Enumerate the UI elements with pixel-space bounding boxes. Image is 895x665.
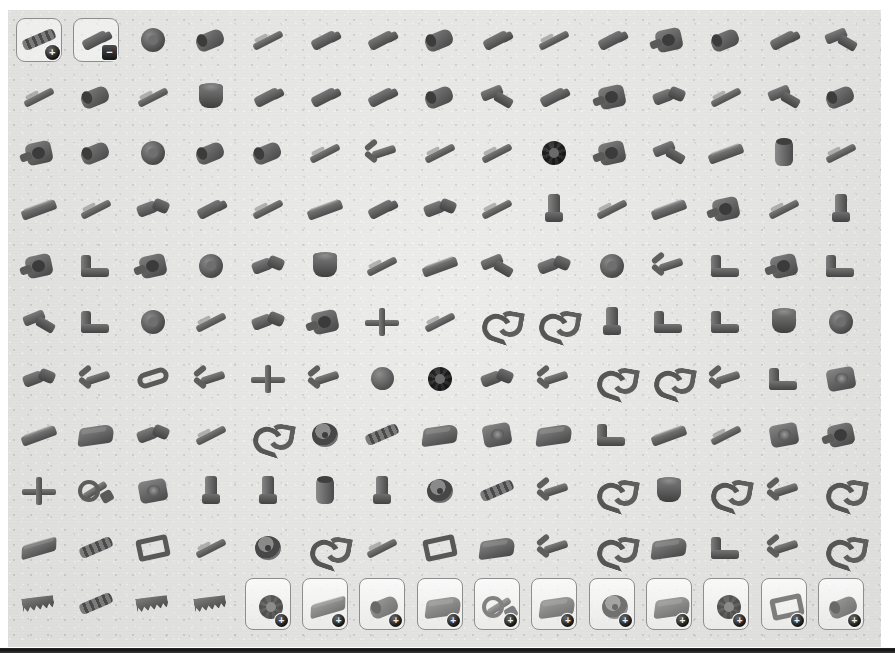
category-frames-button[interactable]: + <box>761 578 807 630</box>
part-plate-engine[interactable] <box>526 407 583 463</box>
add-badge-icon[interactable]: + <box>676 614 689 627</box>
part-cluster-block[interactable] <box>67 238 124 294</box>
part-beam-thick[interactable] <box>10 407 67 463</box>
part-gear-housing[interactable] <box>583 125 640 181</box>
part-ball-socket[interactable] <box>354 125 411 181</box>
part-frame-square[interactable] <box>125 520 182 576</box>
part-joint-piece[interactable] <box>239 294 296 350</box>
part-axle-14l[interactable] <box>354 238 411 294</box>
part-axle-13l[interactable] <box>755 181 812 237</box>
part-dual-joint[interactable] <box>239 238 296 294</box>
add-badge-icon[interactable]: + <box>332 614 345 627</box>
part-cross-joint[interactable] <box>239 350 296 406</box>
part-stud-connector[interactable] <box>812 181 869 237</box>
part-double-pin[interactable] <box>526 238 583 294</box>
part-hub-wide[interactable] <box>182 125 239 181</box>
part-hook-end[interactable] <box>296 520 353 576</box>
part-blade[interactable] <box>182 520 239 576</box>
part-frame-connector[interactable] <box>125 181 182 237</box>
part-hub-spoke[interactable] <box>755 238 812 294</box>
part-ball-large[interactable] <box>354 350 411 406</box>
part-angle-piece[interactable] <box>10 294 67 350</box>
part-wheel-small[interactable] <box>583 238 640 294</box>
part-rod-vertical[interactable] <box>296 463 353 519</box>
part-joint-wedge[interactable] <box>526 520 583 576</box>
part-needle[interactable] <box>182 407 239 463</box>
part-fork-arm[interactable] <box>755 520 812 576</box>
part-gun-piece[interactable] <box>125 407 182 463</box>
part-bush-stud[interactable] <box>526 181 583 237</box>
part-pin-friction[interactable] <box>755 12 812 68</box>
part-connector-sleeve[interactable] <box>67 68 124 124</box>
part-gear-24t[interactable] <box>526 125 583 181</box>
part-mount-block[interactable] <box>583 407 640 463</box>
part-cluster-wide[interactable] <box>698 520 755 576</box>
part-claw[interactable] <box>67 350 124 406</box>
part-gear-bevel[interactable] <box>411 350 468 406</box>
part-arch-piece[interactable] <box>411 520 468 576</box>
category-wedges-button[interactable]: + <box>531 578 577 630</box>
part-beam-4l[interactable] <box>411 238 468 294</box>
part-connector-peg-long[interactable] <box>182 12 239 68</box>
part-arm-bent[interactable] <box>583 520 640 576</box>
part-axle-9l[interactable] <box>468 125 525 181</box>
part-hub-connector[interactable] <box>10 238 67 294</box>
part-link-long[interactable] <box>125 350 182 406</box>
part-joint-piece-2[interactable] <box>698 350 755 406</box>
part-connector-pin-hub[interactable] <box>698 181 755 237</box>
part-link-arm[interactable] <box>10 350 67 406</box>
part-axle-pin-3l[interactable] <box>354 68 411 124</box>
parts-grid[interactable]: +−+++++++++++ <box>10 12 870 632</box>
category-wheels-button[interactable]: + <box>589 578 635 630</box>
category-cylinders-button[interactable]: + <box>359 578 405 630</box>
part-cluster-small[interactable] <box>812 238 869 294</box>
part-axle-8l[interactable] <box>698 68 755 124</box>
part-elbow-3x3[interactable] <box>640 125 697 181</box>
part-axle-7l[interactable] <box>411 125 468 181</box>
part-curved-arm[interactable] <box>640 350 697 406</box>
part-hook-arm[interactable] <box>239 407 296 463</box>
part-u-joint[interactable] <box>296 350 353 406</box>
category-vehicles-button[interactable]: + <box>302 578 348 630</box>
part-axle-16l[interactable] <box>411 294 468 350</box>
part-axle-extender[interactable] <box>698 12 755 68</box>
part-ball-joint-pin[interactable] <box>812 12 869 68</box>
part-connector-round-2[interactable] <box>239 125 296 181</box>
part-saw-blade-3[interactable] <box>182 576 239 632</box>
part-beam-3l[interactable] <box>640 181 697 237</box>
part-axle-12l[interactable] <box>67 181 124 237</box>
part-arm-long[interactable] <box>640 407 697 463</box>
part-hub-round[interactable] <box>583 68 640 124</box>
part-pin-joint[interactable] <box>526 463 583 519</box>
part-wheel-hub[interactable] <box>125 12 182 68</box>
category-gears-button[interactable]: + <box>245 578 291 630</box>
add-badge-icon[interactable]: + <box>561 614 574 627</box>
part-crank-arm[interactable] <box>468 350 525 406</box>
part-clip-piece[interactable] <box>468 238 525 294</box>
part-panel-wedge[interactable] <box>468 520 525 576</box>
part-axle-17l[interactable] <box>698 407 755 463</box>
part-double-connector[interactable] <box>640 68 697 124</box>
part-saw-blade-1[interactable] <box>10 576 67 632</box>
part-bushing-tall[interactable] <box>755 125 812 181</box>
part-axle-joiner[interactable] <box>411 181 468 237</box>
part-pin-long[interactable] <box>296 68 353 124</box>
part-dome[interactable] <box>640 463 697 519</box>
part-axle-connector-block[interactable]: + <box>16 18 62 62</box>
part-steering-knuckle[interactable] <box>10 125 67 181</box>
part-beam-long[interactable] <box>698 125 755 181</box>
part-track-link[interactable] <box>67 520 124 576</box>
part-clip-arm[interactable] <box>583 350 640 406</box>
add-badge-icon[interactable]: + <box>275 614 288 627</box>
remove-badge-icon[interactable]: − <box>102 45 117 60</box>
part-axle-pin[interactable] <box>468 12 525 68</box>
part-pin-connector[interactable] <box>583 12 640 68</box>
add-badge-icon[interactable]: + <box>619 614 632 627</box>
part-flex-rod[interactable] <box>468 463 525 519</box>
part-pin-joiner[interactable] <box>526 68 583 124</box>
part-fork-wide[interactable] <box>526 350 583 406</box>
part-shaft-vertical-2[interactable] <box>354 463 411 519</box>
part-claw-small[interactable] <box>812 463 869 519</box>
part-angled-connector[interactable] <box>755 68 812 124</box>
part-cam[interactable] <box>125 463 182 519</box>
